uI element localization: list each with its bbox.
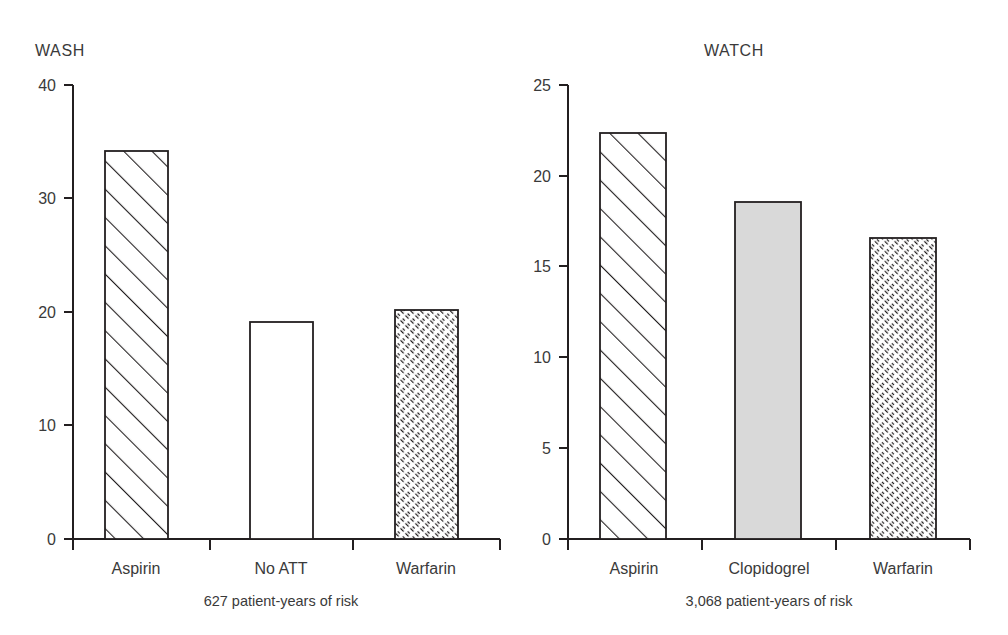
bar-watch-clopidogrel (735, 202, 801, 539)
ytick-label-watch-25: 25 (533, 77, 551, 94)
ytick-label-wash-40: 40 (38, 77, 56, 94)
ytick-label-wash-30: 30 (38, 190, 56, 207)
plot-area-watch: 25 20 15 10 5 0 Aspirin Clopidogrel Warf… (504, 0, 1008, 635)
ytick-label-wash-20: 20 (38, 304, 56, 321)
ytick-label-wash-10: 10 (38, 417, 56, 434)
xtick-label-wash-aspirin: Aspirin (112, 560, 161, 577)
xtick-label-watch-clopidogrel: Clopidogrel (729, 560, 810, 577)
bar-wash-no-att (250, 322, 313, 539)
ytick-label-watch-20: 20 (533, 168, 551, 185)
xtick-label-wash-no-att: No ATT (254, 560, 307, 577)
xtick-label-watch-aspirin: Aspirin (610, 560, 659, 577)
ytick-label-watch-5: 5 (542, 440, 551, 457)
xtick-label-wash-warfarin: Warfarin (396, 560, 456, 577)
xtick-label-watch-warfarin: Warfarin (873, 560, 933, 577)
bar-wash-warfarin (395, 310, 458, 539)
bar-wash-aspirin (105, 151, 168, 539)
chart-panel-watch: WATCH (504, 0, 1008, 635)
bar-chart-figure: WASH (0, 0, 1008, 635)
plot-area-wash: 40 30 20 10 0 Aspirin No ATT Warfarin 62… (0, 0, 504, 635)
ytick-label-wash-0: 0 (47, 531, 56, 548)
bar-watch-aspirin (600, 133, 666, 539)
bar-watch-warfarin (870, 238, 936, 539)
caption-wash: 627 patient-years of risk (204, 593, 359, 609)
ytick-label-watch-15: 15 (533, 258, 551, 275)
chart-panel-wash: WASH (0, 0, 504, 635)
caption-watch: 3,068 patient-years of risk (686, 593, 854, 609)
ytick-label-watch-10: 10 (533, 349, 551, 366)
ytick-label-watch-0: 0 (542, 531, 551, 548)
